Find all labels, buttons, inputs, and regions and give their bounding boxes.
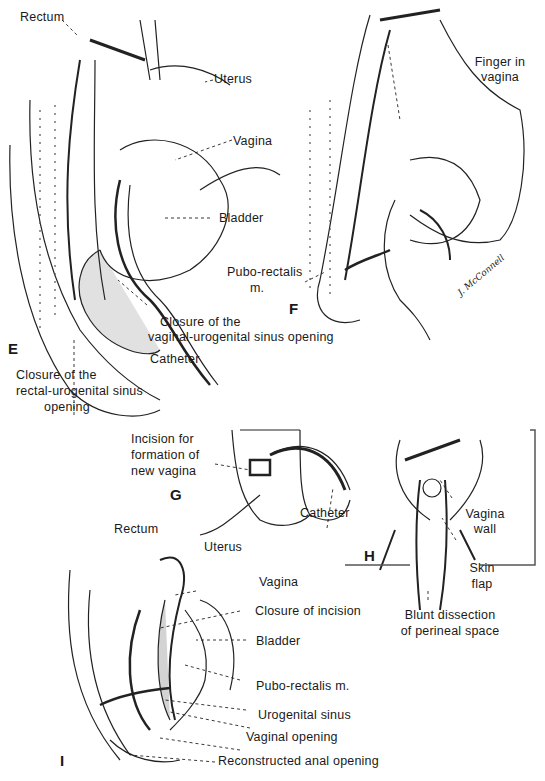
label-g-catheter: Catheter: [300, 506, 350, 520]
label-e-bladder: Bladder: [219, 211, 264, 225]
label-h-skin-flap-2: flap: [462, 577, 502, 591]
label-e-closure-rectal-2: rectal-urogenital sinus: [16, 384, 143, 398]
label-f-finger-2: vagina: [460, 70, 540, 84]
label-e-closure-rectal-1: Closure of the: [16, 368, 97, 382]
label-i-uterus: Uterus: [204, 540, 242, 554]
panel-letter-f: F: [289, 300, 298, 317]
panel-letter-i: I: [60, 752, 64, 769]
label-h-blunt-1: Blunt dissection: [395, 608, 505, 622]
label-h-blunt-2: of perineal space: [395, 624, 505, 638]
label-e-catheter: Catheter: [150, 352, 200, 366]
label-g-incision-3: new vagina: [131, 464, 196, 478]
label-e-closure-vaginal-2: vaginal-urogenital sinus opening: [148, 330, 334, 344]
label-f-finger-1: Finger in: [460, 55, 540, 69]
label-e-closure-rectal-3: opening: [44, 400, 90, 414]
label-i-rectum: Rectum: [114, 522, 158, 536]
label-i-pubo-rectalis: Pubo-rectalis m.: [256, 679, 350, 693]
label-i-bladder: Bladder: [256, 634, 301, 648]
panel-letter-h: H: [364, 547, 375, 564]
label-e-uterus: Uterus: [214, 72, 252, 86]
label-i-vagina: Vagina: [259, 575, 298, 589]
panel-i-drawing: [68, 557, 233, 761]
label-e-rectum: Rectum: [20, 10, 64, 24]
panel-letter-e: E: [8, 340, 18, 357]
label-i-closure: Closure of incision: [255, 604, 361, 618]
label-e-closure-vaginal-1: Closure of the: [160, 315, 241, 329]
label-e-vagina: Vagina: [233, 134, 272, 148]
label-i-urogenital-sinus: Urogenital sinus: [258, 708, 351, 722]
label-h-vagina-wall-1: Vagina: [460, 507, 510, 521]
label-f-muscle: m.: [250, 281, 264, 295]
label-i-vaginal-opening: Vaginal opening: [246, 730, 338, 744]
label-h-vagina-wall-2: wall: [460, 522, 510, 536]
label-g-incision-2: formation of: [131, 448, 199, 462]
label-f-pubo-rectalis: Pubo-rectalis: [227, 265, 303, 279]
label-h-skin-flap-1: Skin: [462, 561, 502, 575]
label-g-incision-1: Incision for: [131, 432, 194, 446]
panel-letter-g: G: [170, 486, 182, 503]
label-i-anal-opening: Reconstructed anal opening: [218, 754, 379, 768]
